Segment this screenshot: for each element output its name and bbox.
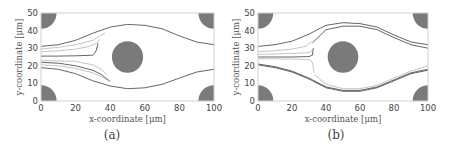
x-tick-label: 60 <box>139 103 150 113</box>
y-tick-label: 0 <box>33 96 38 106</box>
x-tick-label: 100 <box>420 103 436 113</box>
y-tick-label: 40 <box>244 26 255 36</box>
streamline <box>314 66 428 89</box>
x-tick-label: 20 <box>70 103 81 113</box>
x-tick-label: 60 <box>355 103 366 113</box>
obstacle-circle <box>328 41 359 73</box>
y-tick-label: 20 <box>27 61 38 71</box>
x-tick-label: 80 <box>389 103 400 113</box>
y-tick-label: 40 <box>27 26 38 36</box>
y-axis-label: y-coordinate [μm] <box>14 19 24 97</box>
x-tick-label: 0 <box>255 103 260 113</box>
x-tick-label: 0 <box>38 103 43 113</box>
obstacle-circle <box>112 41 143 73</box>
x-tick-label: 40 <box>321 103 332 113</box>
streamline <box>258 50 312 54</box>
streamline <box>312 26 428 48</box>
y-tick-label: 0 <box>250 96 255 106</box>
panel-a: 02040608010001020304050x-coordinate [μm]… <box>0 0 224 155</box>
y-tick-label: 50 <box>244 8 255 18</box>
y-tick-label: 20 <box>244 61 255 71</box>
obstacle-circle <box>198 0 224 29</box>
x-axis-label: x-coordinate [μm] <box>89 114 166 124</box>
y-tick-label: 50 <box>27 8 38 18</box>
caption-a: (a) <box>0 128 224 142</box>
x-tick-label: 80 <box>174 103 185 113</box>
plot-area <box>243 0 444 117</box>
x-tick-label: 40 <box>105 103 116 113</box>
y-tick-label: 30 <box>244 43 255 53</box>
y-tick-label: 10 <box>27 78 38 88</box>
x-tick-label: 100 <box>206 103 222 113</box>
panel-b: 02040608010001020304050x-coordinate [μm]… <box>224 0 448 155</box>
y-tick-label: 10 <box>244 78 255 88</box>
plot-area <box>25 0 224 117</box>
caption-b: (b) <box>224 128 448 142</box>
x-tick-label: 20 <box>287 103 298 113</box>
y-tick-label: 30 <box>27 43 38 53</box>
y-axis-label: y-coordinate [μm] <box>231 19 241 97</box>
x-axis-label: x-coordinate [μm] <box>305 114 382 124</box>
